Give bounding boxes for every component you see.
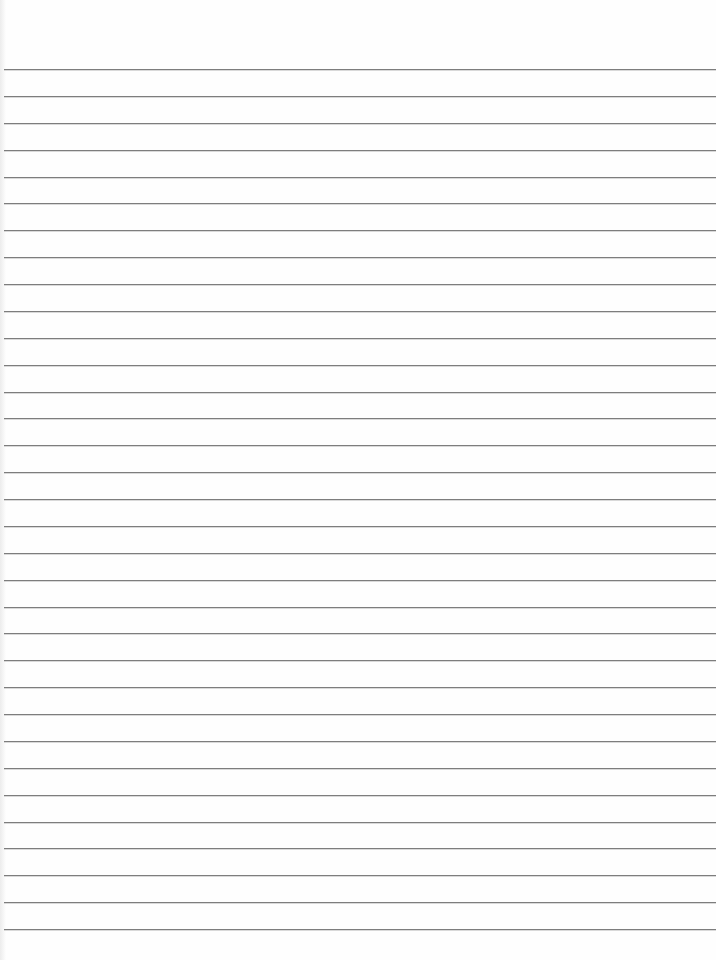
ruled-line [4, 445, 716, 446]
ruled-line [4, 526, 716, 527]
ruled-line [4, 365, 716, 366]
ruled-line [4, 714, 716, 715]
ruled-line [4, 230, 716, 231]
ruled-line [4, 660, 716, 661]
ruled-line [4, 795, 716, 796]
ruled-line [4, 902, 716, 903]
ruled-line [4, 580, 716, 581]
ruled-line [4, 418, 716, 419]
ruled-line [4, 311, 716, 312]
paper-edge-shadow [0, 0, 6, 960]
ruled-line [4, 687, 716, 688]
ruled-line [4, 123, 716, 124]
ruled-line [4, 553, 716, 554]
ruled-line [4, 768, 716, 769]
ruled-line [4, 472, 716, 473]
lined-paper-page [0, 0, 716, 960]
ruled-line [4, 338, 716, 339]
ruled-line [4, 69, 716, 70]
ruled-line [4, 607, 716, 608]
ruled-line [4, 633, 716, 634]
ruled-line [4, 822, 716, 823]
ruled-line [4, 499, 716, 500]
ruled-line [4, 392, 716, 393]
ruled-line [4, 741, 716, 742]
ruled-line [4, 203, 716, 204]
ruled-line [4, 177, 716, 178]
ruled-line [4, 150, 716, 151]
ruled-line [4, 848, 716, 849]
ruled-line [4, 96, 716, 97]
ruled-line [4, 875, 716, 876]
ruled-line [4, 257, 716, 258]
ruled-line [4, 929, 716, 930]
ruled-line [4, 284, 716, 285]
